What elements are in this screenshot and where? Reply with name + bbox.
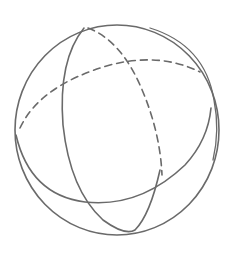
sphere-sketch-canvas (0, 0, 229, 269)
outer-circle-overdraw (150, 28, 217, 160)
outer-circle (15, 25, 219, 235)
equator-back (20, 60, 200, 128)
equator-front (16, 108, 211, 203)
meridian-back (88, 28, 162, 175)
sphere-sketch (0, 0, 229, 269)
